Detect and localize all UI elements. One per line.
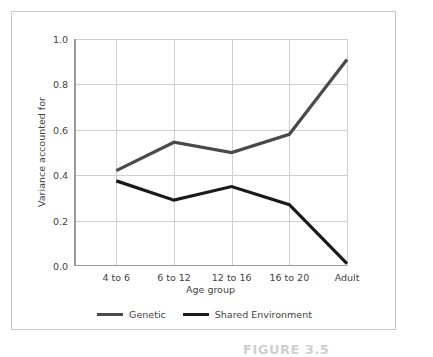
figure-caption: FIGURE 3.5 — [243, 342, 433, 357]
y-axis-tick-label: 0.2 — [53, 215, 68, 226]
legend-swatch-icon — [183, 313, 209, 317]
legend-label: Genetic — [129, 309, 166, 320]
x-axis-tick-label: 4 to 6 — [102, 272, 130, 283]
plot-area: 0.00.20.40.60.81.0 4 to 66 to 1212 to 16… — [74, 39, 347, 266]
figure-panel: Variance accounted for 0.00.20.40.60.81.… — [11, 11, 396, 330]
series-line-genetic — [116, 59, 347, 170]
y-axis-tick-label: 1.0 — [53, 34, 68, 45]
y-axis-title: Variance accounted for — [34, 39, 48, 266]
gridline-horizontal — [74, 266, 347, 267]
legend-label: Shared Environment — [215, 309, 312, 320]
y-axis-tick-label: 0.8 — [53, 79, 68, 90]
x-axis-tick-label: 12 to 16 — [212, 272, 252, 283]
gridline-vertical — [347, 39, 348, 266]
y-axis-tick-label: 0.4 — [53, 170, 68, 181]
x-axis-tick-label: 16 to 20 — [269, 272, 309, 283]
series-line-shared-environment — [116, 181, 347, 264]
data-series-group — [74, 39, 347, 266]
y-axis-tick-label: 0.0 — [53, 261, 68, 272]
legend-item-genetic[interactable]: Genetic — [97, 309, 166, 320]
legend-swatch-icon — [97, 313, 123, 317]
legend-item-shared-environment[interactable]: Shared Environment — [183, 309, 312, 320]
chart-legend: GeneticShared Environment — [12, 309, 397, 320]
x-axis-tick-label: 6 to 12 — [157, 272, 191, 283]
x-axis-tick-label: Adult — [335, 272, 360, 283]
x-axis-title: Age group — [74, 284, 347, 295]
y-axis-tick-label: 0.6 — [53, 124, 68, 135]
